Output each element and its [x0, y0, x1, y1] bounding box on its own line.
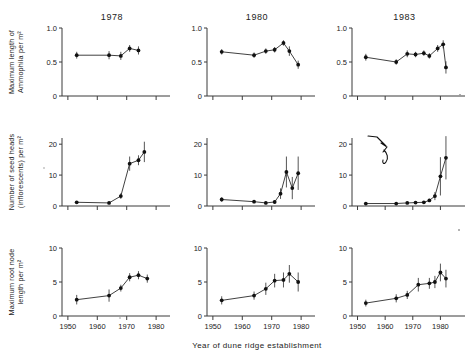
y-axis-label-row2-line2: (inflorescents) per m² [16, 135, 25, 208]
data-point [287, 49, 291, 53]
data-point [414, 201, 418, 205]
data-point [296, 63, 300, 67]
data-series-line [222, 43, 298, 65]
scan-speck-2 [119, 317, 121, 319]
data-point [252, 294, 256, 298]
x-tick-label-1950: 1950 [60, 322, 77, 331]
panel-r1-c1: 00.51.0 [47, 24, 170, 101]
column-title-1978: 1978 [101, 12, 123, 22]
x-tick-label-1960: 1960 [377, 322, 394, 331]
y-tick-label-5: 5 [53, 278, 57, 287]
y-tick-label-0: 0 [198, 202, 202, 211]
panel-r2-c3: 01020 [339, 136, 465, 210]
y-tick-label-0: 0 [343, 92, 347, 101]
data-point [107, 201, 111, 205]
data-point [119, 194, 123, 198]
data-series-line [77, 275, 148, 299]
x-tick-label-1980: 1980 [432, 322, 449, 331]
x-tick-label-1980: 1980 [293, 322, 310, 331]
x-axis-title: Year of dune ridge establishment [192, 341, 322, 350]
data-point [252, 53, 256, 57]
scan-speck-1 [458, 229, 460, 231]
data-point [220, 50, 224, 54]
data-point [433, 280, 437, 284]
data-point [394, 60, 398, 64]
scan-speck-3 [43, 167, 45, 169]
y-tick-label-5: 5 [198, 278, 202, 287]
data-point [364, 55, 368, 59]
y-tick-label-10: 10 [194, 171, 202, 180]
y-tick-label-0: 0 [343, 202, 347, 211]
x-tick-label-1970: 1970 [118, 322, 135, 331]
x-tick-label-1950: 1950 [349, 322, 366, 331]
data-point [220, 198, 224, 202]
y-axis-label-row3-line1: Maximum root node [7, 249, 16, 316]
data-series-line [366, 44, 446, 67]
y-tick-label-0.5: 0.5 [192, 58, 202, 67]
annotation-stroke [368, 136, 387, 163]
column-title-1980: 1980 [246, 12, 268, 22]
data-point [282, 278, 286, 282]
data-point [405, 293, 409, 297]
y-tick-label-0: 0 [53, 312, 57, 321]
data-point [405, 52, 409, 56]
panel-r3-c1: 05101950196019701980 [49, 244, 170, 331]
data-point [137, 273, 141, 277]
data-point [252, 200, 256, 204]
multi-panel-scatter-figure: 197819801983Maximum length ofAmmophila p… [0, 0, 469, 359]
y-axis-label-row2-line1: Number of seed heads [7, 133, 16, 210]
x-tick-label-1950: 1950 [205, 322, 222, 331]
data-point [279, 192, 283, 196]
x-tick-label-1980: 1980 [148, 322, 165, 331]
y-axis-label-row1-line2: Ammophila per m² [16, 31, 25, 93]
data-point [220, 298, 224, 302]
data-point [444, 66, 448, 70]
y-tick-label-20: 20 [49, 140, 57, 149]
y-tick-label-0: 0 [53, 92, 57, 101]
data-point [264, 201, 268, 205]
data-point [273, 200, 277, 204]
y-tick-label-10: 10 [339, 244, 347, 253]
data-point [433, 194, 437, 198]
data-point [107, 294, 111, 298]
data-point [394, 202, 398, 206]
data-point [145, 277, 149, 281]
y-tick-label-10: 10 [194, 244, 202, 253]
data-point [128, 162, 132, 166]
data-point [436, 47, 440, 51]
data-point [142, 150, 146, 154]
data-point [119, 286, 123, 290]
data-point [75, 298, 79, 302]
data-point [439, 271, 443, 275]
data-series-line [77, 152, 145, 203]
data-point [444, 156, 448, 160]
data-point [128, 275, 132, 279]
y-tick-label-1.0: 1.0 [192, 24, 202, 33]
data-point [119, 54, 123, 58]
panel-r3-c3: 05101950196019701980 [339, 244, 465, 331]
column-title-1983: 1983 [393, 12, 415, 22]
data-point [296, 280, 300, 284]
data-point [394, 296, 398, 300]
data-point [439, 174, 443, 178]
data-series-line [222, 274, 298, 301]
data-point [128, 47, 132, 51]
y-tick-label-10: 10 [339, 171, 347, 180]
data-point [107, 53, 111, 57]
x-tick-label-1970: 1970 [263, 322, 280, 331]
y-tick-label-0.5: 0.5 [337, 58, 347, 67]
panel-r2-c1: 01020 [49, 138, 170, 211]
data-point [414, 53, 418, 57]
handwritten-arrow-annotation [368, 136, 387, 163]
data-point [264, 287, 268, 291]
data-point [273, 48, 277, 52]
data-point [441, 42, 445, 46]
data-point [137, 49, 141, 53]
y-tick-label-5: 5 [343, 278, 347, 287]
data-point [137, 158, 141, 162]
y-tick-label-0: 0 [198, 92, 202, 101]
x-tick-label-1970: 1970 [404, 322, 421, 331]
data-point [290, 186, 294, 190]
data-point [405, 201, 409, 205]
data-point [444, 277, 448, 281]
